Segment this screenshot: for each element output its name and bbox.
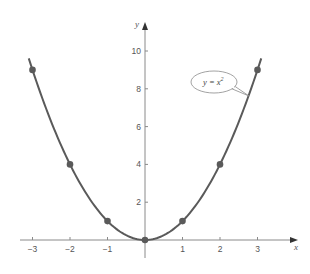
y-tick-label: 8 xyxy=(136,84,141,94)
data-point xyxy=(104,218,111,225)
parabola-chart: x y −3−2−1123 246810 y = x2 xyxy=(0,0,310,274)
y-ticks: 246810 xyxy=(132,46,148,207)
data-point xyxy=(29,67,36,74)
x-tick-label: −3 xyxy=(28,244,38,254)
data-point xyxy=(179,218,186,225)
x-tick-label: 1 xyxy=(180,244,185,254)
x-tick-label: −1 xyxy=(103,244,113,254)
y-tick-label: 4 xyxy=(136,159,141,169)
x-axis-label: x xyxy=(293,242,298,252)
y-axis-label: y xyxy=(134,19,139,29)
equation-callout: y = x2 xyxy=(191,71,249,96)
y-tick-label: 2 xyxy=(136,197,141,207)
x-tick-label: 3 xyxy=(255,244,260,254)
x-tick-label: −2 xyxy=(65,244,75,254)
data-point xyxy=(217,161,224,168)
y-tick-label: 6 xyxy=(136,122,141,132)
data-point xyxy=(142,237,149,244)
y-tick-label: 10 xyxy=(132,46,142,56)
x-tick-label: 2 xyxy=(218,244,223,254)
axes: x y −3−2−1123 246810 xyxy=(20,19,298,258)
data-point xyxy=(67,161,74,168)
y-axis-arrow-icon xyxy=(142,22,148,30)
callout-equation: y = x2 xyxy=(202,76,224,87)
data-point xyxy=(254,67,261,74)
